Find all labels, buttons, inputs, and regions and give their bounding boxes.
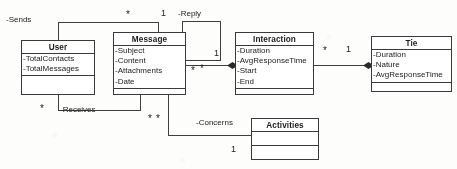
multiplicity-message-interaction-one: 1	[214, 49, 219, 58]
multiplicity-receives-left-star: *	[40, 106, 44, 112]
association-label-receives: -Receives	[60, 105, 96, 114]
reply-connector-segment-v2	[220, 21, 221, 61]
attribute-row: -Attachments	[115, 66, 185, 76]
multiplicity-interaction-tie-one: 1	[346, 45, 351, 54]
attribute-row: -Duration	[237, 46, 313, 56]
class-operations-tie	[372, 83, 451, 92]
class-operations-activities	[252, 146, 318, 159]
attribute-row: -TotalContacts	[23, 54, 94, 64]
interaction-tie-connector	[313, 65, 369, 66]
class-attributes-activities	[252, 132, 318, 146]
attribute-row: -Nature	[373, 60, 451, 70]
concerns-connector-segment-v1	[168, 95, 169, 135]
multiplicity-receives-right-star: *	[148, 116, 152, 122]
attribute-row: -AvgResponseTime	[373, 70, 451, 80]
concerns-connector-segment-h	[168, 135, 252, 136]
class-box-message[interactable]: Message -Subject -Content -Attachments -…	[113, 32, 186, 95]
sends-connector-segment-h	[58, 22, 159, 23]
multiplicity-concerns-star: *	[156, 116, 160, 122]
attribute-row: -AvgResponseTime	[237, 56, 313, 66]
attribute-row: -Content	[115, 56, 185, 66]
attribute-row: -TotalMessages	[23, 64, 94, 74]
class-name-tie: Tie	[372, 37, 451, 50]
uml-class-diagram: User -TotalContacts -TotalMessages Messa…	[0, 0, 457, 169]
class-operations-message	[114, 89, 185, 98]
multiplicity-interaction-tie-star: *	[323, 48, 327, 54]
class-attributes-tie: -Duration -Nature -AvgResponseTime	[372, 50, 451, 83]
attribute-row: -Subject	[115, 46, 185, 56]
multiplicity-sends-star: *	[126, 12, 130, 18]
multiplicity-reply-star: *	[191, 68, 195, 74]
multiplicity-message-interaction-star: *	[200, 66, 204, 72]
attribute-row: -Duration	[373, 50, 451, 60]
class-name-interaction: Interaction	[236, 33, 313, 46]
attribute-row: -Start	[237, 66, 313, 76]
class-attributes-user: -TotalContacts -TotalMessages	[22, 54, 94, 76]
attribute-row: -Date	[115, 77, 185, 87]
receives-connector-segment-v1	[58, 95, 59, 110]
class-operations-user	[22, 76, 94, 94]
class-box-tie[interactable]: Tie -Duration -Nature -AvgResponseTime	[371, 36, 452, 92]
reply-connector-segment-h2	[186, 60, 221, 61]
multiplicity-reply-one: 1	[161, 9, 166, 18]
class-name-user: User	[22, 41, 94, 54]
association-label-concerns: -Concerns	[196, 118, 233, 127]
class-attributes-interaction: -Duration -AvgResponseTime -Start -End	[236, 46, 313, 89]
class-box-activities[interactable]: Activities	[251, 118, 319, 160]
class-attributes-message: -Subject -Content -Attachments -Date	[114, 46, 185, 89]
attribute-row: -End	[237, 77, 313, 87]
class-box-interaction[interactable]: Interaction -Duration -AvgResponseTime -…	[235, 32, 314, 95]
class-name-activities: Activities	[252, 119, 318, 132]
class-box-user[interactable]: User -TotalContacts -TotalMessages	[21, 40, 95, 95]
association-label-reply: -Reply	[178, 9, 201, 18]
multiplicity-concerns-one: 1	[231, 145, 236, 154]
reply-connector-segment-h1	[182, 21, 221, 22]
class-operations-interaction	[236, 89, 313, 98]
class-name-message: Message	[114, 33, 185, 46]
association-label-sends: -Sends	[6, 15, 31, 24]
